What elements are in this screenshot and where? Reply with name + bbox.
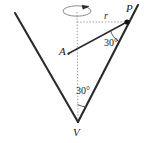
- label-angle-at-p: 30°: [104, 38, 118, 48]
- geometry-figure: P r A V 30° 30°: [0, 0, 144, 143]
- cone-left-slant-line: [15, 13, 78, 122]
- figure-canvas: [0, 0, 144, 143]
- point-marker-p-icon: [124, 19, 129, 24]
- label-angle-at-v: 30°: [76, 86, 90, 96]
- label-radius-r: r: [104, 11, 108, 21]
- rotation-arrowhead-icon: [82, 5, 89, 9]
- label-point-a: A: [59, 46, 66, 57]
- point-marker-a-icon: [67, 53, 69, 55]
- label-point-p: P: [126, 3, 133, 14]
- label-apex-v: V: [73, 127, 80, 138]
- rotation-axis-dotted-line: [77, 12, 78, 122]
